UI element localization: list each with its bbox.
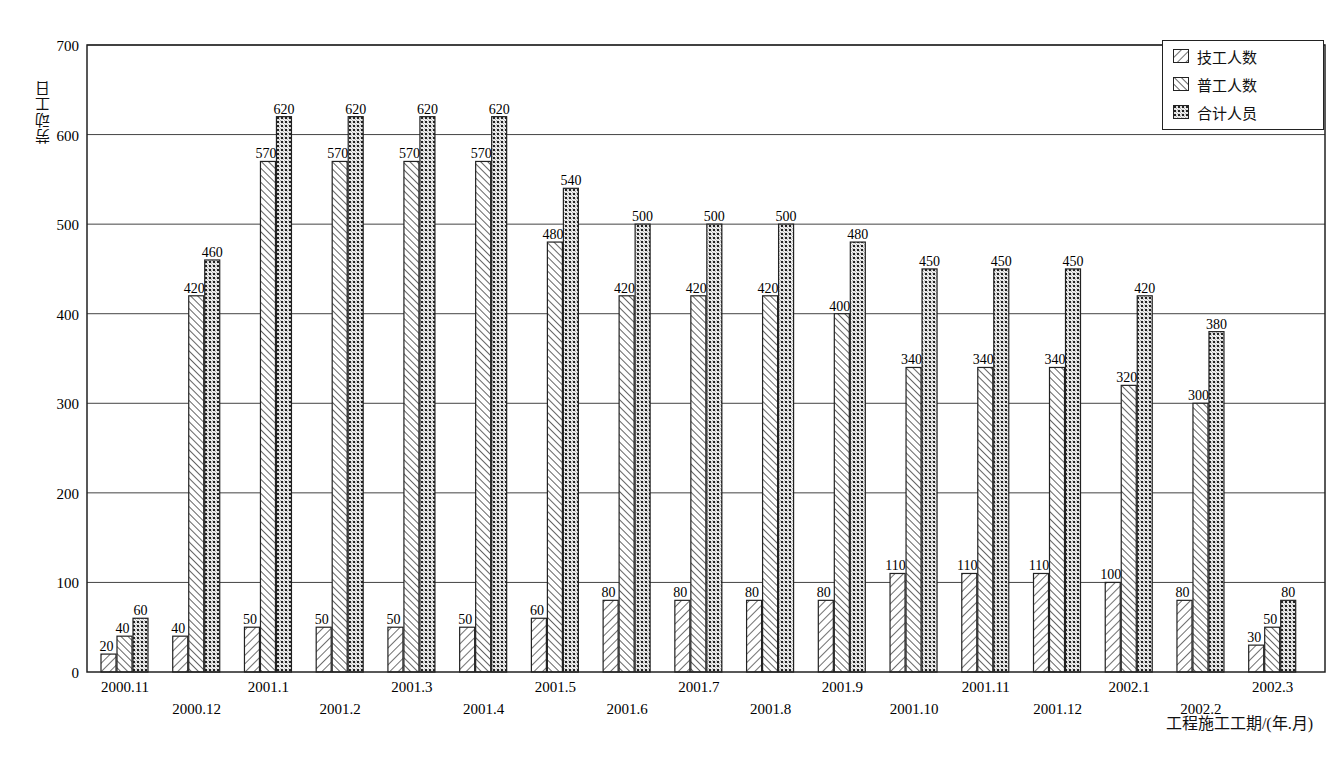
bar [1034, 573, 1049, 672]
bar-value-label: 80 [1281, 585, 1295, 600]
bar-value-label: 420 [614, 281, 635, 296]
bar-value-label: 50 [1263, 612, 1277, 627]
bar [1281, 600, 1296, 672]
x-tick-label: 2001.2 [320, 701, 361, 717]
bar [1105, 582, 1120, 672]
bar-value-label: 340 [901, 352, 922, 367]
bar-value-label: 50 [315, 612, 329, 627]
bar [1209, 332, 1224, 672]
x-tick-label: 2001.7 [678, 679, 720, 695]
bar-value-label: 110 [885, 558, 905, 573]
legend-item-skilled: 技工人数 [1163, 43, 1323, 69]
bar [962, 573, 977, 672]
bar-value-label: 420 [686, 281, 707, 296]
crosshatch-pattern-icon [1173, 105, 1189, 119]
bar [1265, 627, 1280, 672]
bar [747, 600, 762, 672]
bar [547, 242, 562, 672]
x-tick-label: 2000.11 [101, 679, 149, 695]
bar-value-label: 40 [116, 621, 130, 636]
bar-value-label: 480 [542, 227, 563, 242]
bar-value-label: 480 [847, 227, 868, 242]
x-tick-label: 2001.11 [962, 679, 1010, 695]
bar-value-label: 420 [1134, 281, 1155, 296]
x-tick-label: 2001.8 [750, 701, 791, 717]
bar [635, 224, 650, 672]
x-tick-label: 2001.10 [890, 701, 939, 717]
bar-value-label: 300 [1188, 388, 1209, 403]
diag-left-pattern-icon [1173, 77, 1189, 91]
bar [978, 367, 993, 672]
y-tick-label: 200 [57, 486, 80, 502]
bar [994, 269, 1009, 672]
x-tick-label: 2001.1 [248, 679, 289, 695]
bar-value-label: 450 [991, 254, 1012, 269]
bar-value-label: 620 [417, 102, 438, 117]
x-tick-label: 2001.5 [535, 679, 576, 695]
bar [906, 367, 921, 672]
legend-item-total: 合计人员 [1163, 99, 1323, 125]
bar [133, 618, 148, 672]
bar [890, 573, 905, 672]
bar [316, 627, 331, 672]
bar-value-label: 80 [673, 585, 687, 600]
bar [691, 296, 706, 672]
bar [675, 600, 690, 672]
bar [603, 600, 618, 672]
bar [388, 627, 403, 672]
bar-value-label: 20 [100, 639, 114, 654]
bar [101, 654, 116, 672]
y-tick-label: 700 [57, 38, 80, 54]
x-tick-label: 2001.4 [463, 701, 505, 717]
x-tick-label: 2001.9 [822, 679, 863, 695]
bar-value-label: 570 [399, 146, 420, 161]
y-tick-label: 300 [57, 396, 80, 412]
y-axis-label: 劳动工日 [32, 80, 53, 144]
x-axis-label: 工程施工工期/(年.月) [1166, 710, 1313, 734]
bar-value-label: 420 [184, 281, 205, 296]
legend-label: 合计人员 [1197, 102, 1257, 123]
bar-value-label: 450 [919, 254, 940, 269]
bar [1137, 296, 1152, 672]
bar-value-label: 50 [243, 612, 257, 627]
x-tick-label: 2002.3 [1252, 679, 1293, 695]
bar-value-label: 50 [458, 612, 472, 627]
bar [276, 117, 291, 672]
bar-value-label: 340 [1045, 352, 1066, 367]
bar [818, 600, 833, 672]
bar [834, 314, 849, 672]
bar [1249, 645, 1264, 672]
bar [348, 117, 363, 672]
bar [332, 161, 347, 672]
bar-value-label: 450 [1063, 254, 1084, 269]
bar-value-label: 340 [973, 352, 994, 367]
bar [763, 296, 778, 672]
bar [117, 636, 132, 672]
bar-value-label: 80 [602, 585, 616, 600]
bar-value-label: 570 [327, 146, 348, 161]
bar-value-label: 40 [171, 621, 185, 636]
bar-value-label: 100 [1100, 567, 1121, 582]
bar [707, 224, 722, 672]
bar-value-label: 620 [345, 102, 366, 117]
y-tick-label: 500 [57, 217, 80, 233]
bar [189, 296, 204, 672]
bar [460, 627, 475, 672]
y-tick-label: 100 [57, 575, 80, 591]
bar-value-label: 320 [1116, 370, 1137, 385]
bar-value-label: 30 [1247, 630, 1261, 645]
bar-value-label: 420 [758, 281, 779, 296]
bar-value-label: 570 [471, 146, 492, 161]
bar [1193, 403, 1208, 672]
bar-value-label: 80 [1175, 585, 1189, 600]
legend-item-general: 普工人数 [1163, 71, 1323, 97]
bar [476, 161, 491, 672]
bar [1121, 385, 1136, 672]
bar [850, 242, 865, 672]
bar [619, 296, 634, 672]
bar-value-label: 60 [134, 603, 148, 618]
bar [173, 636, 188, 672]
x-tick-label: 2000.12 [172, 701, 221, 717]
bar [420, 117, 435, 672]
bar-value-label: 60 [530, 603, 544, 618]
